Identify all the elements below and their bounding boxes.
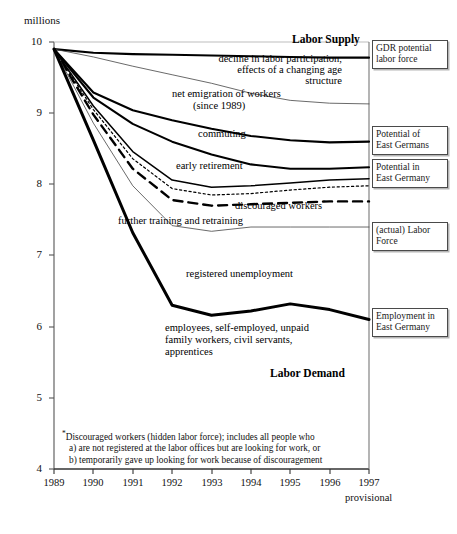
side-label-employment-in-east-germany: Employment in East Germany <box>372 308 448 337</box>
chart-figure: millions 10987654 1989199019911992199319… <box>0 0 457 534</box>
y-tick-label-7: 7 <box>16 248 42 260</box>
annotation-registered-unemployment: registered unemployment <box>186 268 293 280</box>
annotation-labor-demand: Labor Demand <box>270 367 345 379</box>
y-tick-label-10: 10 <box>16 35 42 47</box>
footnote-marker-icon: * <box>322 198 326 206</box>
x-tick-label-1997: 1997 <box>346 477 392 488</box>
annotation-discouraged-workers: discouraged workers* <box>235 196 326 212</box>
side-label-line: Potential of <box>376 129 444 140</box>
x-axis-provisional-note: provisional <box>345 492 392 503</box>
side-label-potential-of-east-germans: Potential of East Germans <box>372 126 448 155</box>
chart-footnote: *Discouraged workers (hidden labor force… <box>62 428 322 466</box>
side-label-line: East Germany <box>376 322 444 333</box>
annotation-employees-line3: apprentices <box>165 346 213 358</box>
annotation-decline-line3: structure <box>160 75 342 87</box>
annotation-labor-supply: Labor Supply <box>292 33 360 45</box>
side-label-line: GDR potential <box>376 43 444 54</box>
side-label-gdr-potential-labor-force: GDR potential labor force <box>372 40 448 69</box>
annotation-net-emigration-line1: net emigration of workers <box>172 88 281 100</box>
footnote-line-1: *Discouraged workers (hidden labor force… <box>62 428 322 443</box>
y-tick-label-6: 6 <box>16 320 42 332</box>
y-tick-label-9: 9 <box>16 106 42 118</box>
footnote-line-3: b) temporarily gave up looking for work … <box>62 455 322 466</box>
side-label-line: Potential in <box>376 162 444 173</box>
side-label-line: (actual) Labor <box>376 225 444 236</box>
annotation-net-emigration-line2: (since 1989) <box>193 100 245 112</box>
side-label-actual-labor-force: (actual) Labor Force <box>372 222 448 251</box>
y-tick-label-8: 8 <box>16 177 42 189</box>
side-label-line: Force <box>376 236 444 247</box>
annotation-commuting: commuting <box>198 128 246 140</box>
annotation-further-training: further training and retraining <box>118 215 243 227</box>
y-tick-label-4: 4 <box>16 462 42 474</box>
side-label-line: East Germany <box>376 173 444 184</box>
footnote-line-2: a) are not registered at the labor offic… <box>62 443 322 454</box>
side-label-line: Employment in <box>376 311 444 322</box>
side-label-line: East Germans <box>376 140 444 151</box>
side-label-line: labor force <box>376 54 444 65</box>
annotation-early-retirement: early retirement <box>176 160 243 172</box>
annotation-employees-line2: family workers, civil servants, <box>165 334 292 346</box>
annotation-employees-line1: employees, self-employed, unpaid <box>165 322 309 334</box>
side-label-potential-in-east-germany: Potential in East Germany <box>372 159 448 188</box>
y-tick-label-5: 5 <box>16 391 42 403</box>
